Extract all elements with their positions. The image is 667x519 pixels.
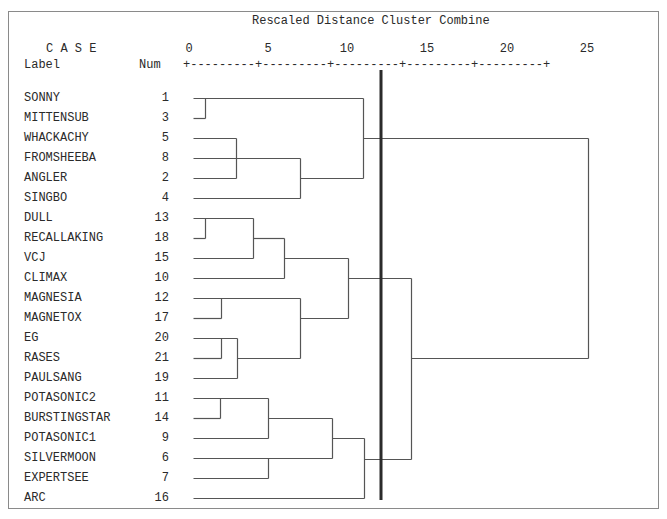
dendrogram-plot xyxy=(0,0,667,519)
